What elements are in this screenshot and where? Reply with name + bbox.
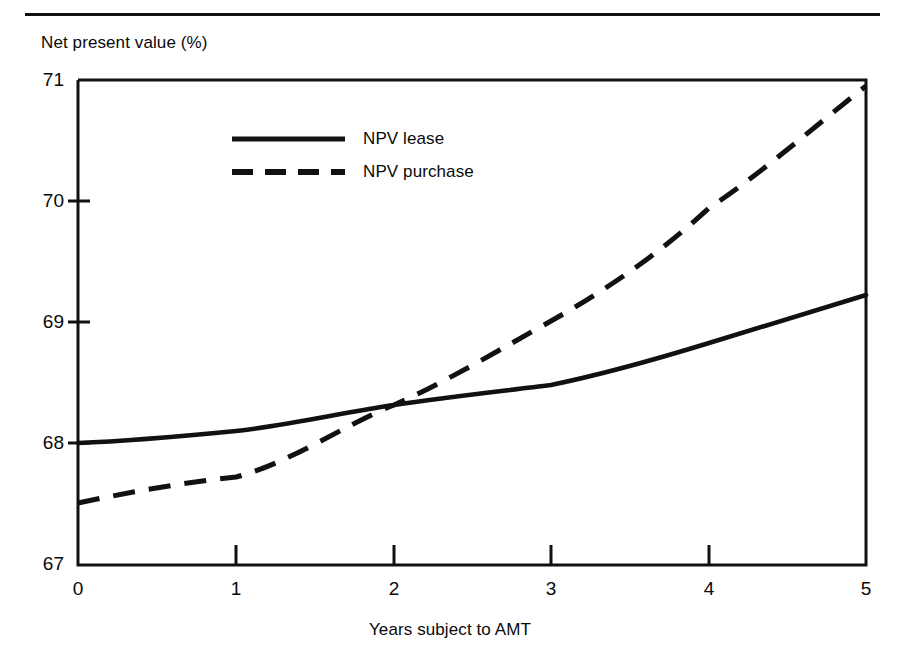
series-npv-purchase bbox=[78, 86, 866, 503]
x-axis-ticks bbox=[236, 545, 709, 565]
x-tick-label-0: 0 bbox=[58, 578, 98, 600]
y-tick-label-68: 68 bbox=[24, 432, 64, 454]
y-tick-label-67: 67 bbox=[24, 553, 64, 575]
x-tick-label-4: 4 bbox=[689, 578, 729, 600]
y-tick-label-69: 69 bbox=[24, 311, 64, 333]
x-tick-label-3: 3 bbox=[531, 578, 571, 600]
figure-container: Net present value (%) bbox=[0, 0, 900, 667]
x-tick-label-2: 2 bbox=[374, 578, 414, 600]
x-tick-label-1: 1 bbox=[216, 578, 256, 600]
x-tick-label-5: 5 bbox=[846, 578, 886, 600]
chart-plot-svg bbox=[0, 0, 900, 667]
y-tick-label-71: 71 bbox=[24, 69, 64, 91]
legend-label-npv-lease: NPV lease bbox=[363, 129, 444, 149]
series-npv-lease bbox=[78, 295, 866, 443]
legend-label-npv-purchase: NPV purchase bbox=[363, 162, 474, 182]
x-axis-title: Years subject to AMT bbox=[0, 620, 900, 640]
y-tick-label-70: 70 bbox=[24, 190, 64, 212]
plot-frame bbox=[78, 80, 866, 565]
